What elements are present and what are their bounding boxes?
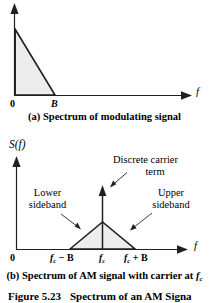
panel-a-caption: (a) Spectrum of modulating signal <box>0 112 209 123</box>
annotation-discrete-carrier-line2: term <box>113 167 197 178</box>
annotation-lower-sideband-line2: sideband <box>25 200 70 211</box>
figure-caption: Figure 5.23Spectrum of an AM Signa <box>8 291 192 302</box>
annotation-upper-sideband-line2: sideband <box>148 200 194 211</box>
panel-b-x-axis-label: f <box>194 240 197 251</box>
figure-container: f 0 B (a) Spectrum of modulating signal … <box>0 0 209 303</box>
panel-b-tick-fc-plus-B: fc + B <box>124 253 148 263</box>
panel-b-tick-fc-minus-B: fc − B <box>50 253 74 263</box>
panel-b-caption-text: (b) Spectrum of AM signal with carrier a… <box>7 270 196 281</box>
panel-b-y-axis-label: S(f) <box>9 139 26 151</box>
panel-b-caption: (b) Spectrum of AM signal with carrier a… <box>0 271 209 282</box>
tick-subscript-c: c <box>127 257 130 264</box>
panel-a-tick-B: B <box>51 99 58 109</box>
tick-suffix-minus-B: − B <box>56 252 73 263</box>
annotation-leader-lines <box>61 173 152 231</box>
tick-suffix-plus-B: + B <box>130 252 147 263</box>
figure-title: Spectrum of an AM Signa <box>70 290 192 302</box>
panel-a-x-axis-label: f <box>196 86 199 97</box>
panel-a-spectrum-triangle <box>15 29 55 95</box>
tick-subscript-c: c <box>102 257 105 264</box>
panel-a-graphics <box>10 3 192 100</box>
annotation-lower-sideband-line1: Lower <box>25 188 70 199</box>
figure-number: Figure 5.23 <box>8 290 61 302</box>
annotation-discrete-carrier-line1: Discrete carrier <box>113 155 178 166</box>
panel-a-tick-0: 0 <box>10 99 15 109</box>
panel-b-tick-fc: fc <box>99 253 105 263</box>
panel-b-y-axis <box>12 156 20 250</box>
panel-b-tick-0: 0 <box>10 253 15 263</box>
tick-subscript-c: c <box>53 257 56 264</box>
annotation-upper-sideband-line1: Upper <box>148 188 194 199</box>
